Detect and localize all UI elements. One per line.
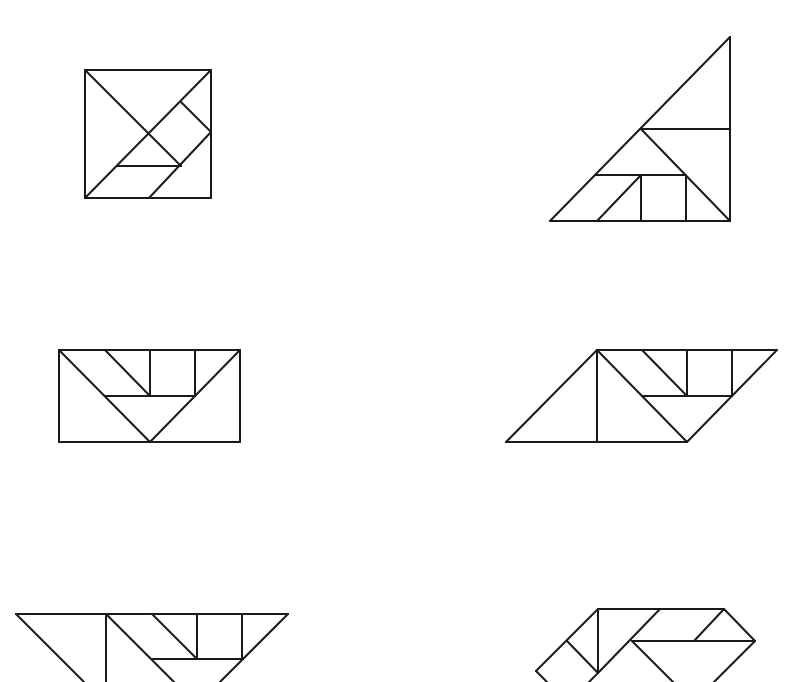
- piece-edge: [105, 350, 150, 396]
- piece-edge: [536, 671, 547, 682]
- piece-edge: [85, 70, 181, 166]
- figure-square: [85, 70, 211, 198]
- piece-edge: [642, 350, 687, 396]
- piece-edge: [106, 614, 174, 682]
- piece-edge: [724, 609, 755, 641]
- figure-trapezoid: [16, 614, 288, 682]
- piece-edge: [632, 641, 673, 682]
- piece-edge: [220, 614, 288, 682]
- piece-edge: [694, 609, 724, 641]
- figure-rectangle: [59, 350, 240, 442]
- piece-edge: [714, 641, 755, 682]
- tangram-diagram: [0, 0, 806, 682]
- figure-boat: [536, 609, 755, 682]
- piece-edge: [152, 614, 197, 659]
- piece-edge: [567, 641, 598, 673]
- figure-large-triangle: [550, 37, 730, 221]
- figure-parallelogram: [506, 350, 777, 442]
- piece-edge: [589, 673, 598, 682]
- piece-edge: [181, 102, 211, 132]
- piece-edge: [16, 614, 84, 682]
- piece-edge: [597, 175, 641, 221]
- piece-edge: [506, 350, 597, 442]
